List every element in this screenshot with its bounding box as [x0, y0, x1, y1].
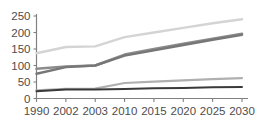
x-tick-label: 2003 [82, 105, 108, 117]
x-tick-label: 2002 [53, 105, 79, 117]
series-line-series-1 [37, 19, 243, 53]
x-axis-tick-labels: 19902002200320102015202020252030 [24, 105, 255, 117]
x-tick-label: 2020 [170, 105, 196, 117]
y-tick-label: 100 [11, 60, 30, 72]
series-line-series-5 [37, 87, 243, 91]
data-series-group [37, 19, 243, 91]
x-tick-label: 2030 [229, 105, 255, 117]
x-tick-label: 2010 [112, 105, 138, 117]
x-tick-label: 2015 [141, 105, 167, 117]
y-tick-label: 200 [11, 27, 30, 39]
x-tick-label: 1990 [24, 105, 50, 117]
y-tick-label: 150 [11, 43, 30, 55]
y-tick-label: 50 [18, 76, 31, 88]
x-tick-label: 2025 [200, 105, 226, 117]
series-line-series-3 [37, 35, 243, 74]
y-axis-tick-labels: 050100150200250 [11, 10, 30, 105]
line-chart: 050100150200250 199020022003201020152020… [0, 0, 265, 125]
chart-canvas: 050100150200250 199020022003201020152020… [0, 0, 265, 125]
y-tick-label: 0 [24, 93, 30, 105]
y-tick-label: 250 [11, 10, 30, 22]
